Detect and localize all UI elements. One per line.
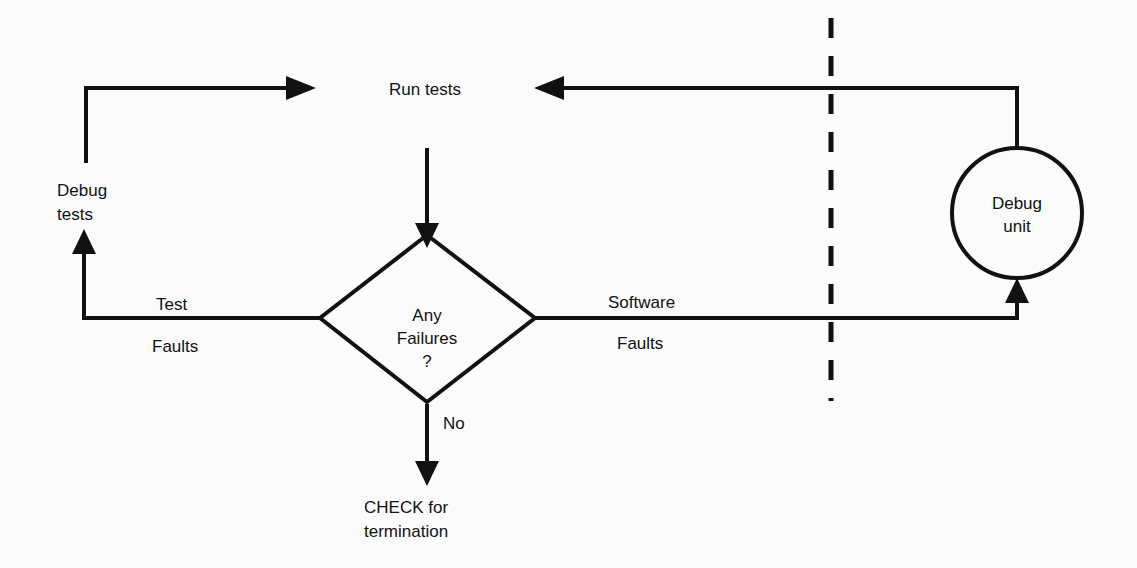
decision-node-label-line2: Failures — [397, 329, 457, 348]
edge-decision-no-to-termination — [415, 404, 439, 486]
decision-node-any-failures[interactable]: Any Failures ? — [320, 235, 535, 402]
debug-tests-label: Debug tests — [57, 181, 107, 224]
edge-label-no: No — [443, 414, 465, 433]
flowchart-svg: Any Failures ? Debug unit Debug tests CH… — [0, 0, 1137, 568]
edge-label-test: Test — [156, 295, 187, 314]
flowchart-canvas: Any Failures ? Debug unit Debug tests CH… — [0, 0, 1137, 568]
edge-label-software: Software — [608, 293, 675, 312]
edge-label-faults-left: Faults — [152, 337, 198, 356]
edge-label-faults-right: Faults — [617, 334, 663, 353]
edge-label-run-tests: Run tests — [389, 80, 461, 99]
edge-debug-tests-to-run-tests — [86, 76, 316, 163]
termination-node: CHECK for termination — [364, 498, 448, 541]
edge-debug-unit-to-run-tests — [534, 76, 1017, 148]
edge-decision-to-debug-tests — [72, 229, 320, 318]
decision-node-label-line3: ? — [422, 352, 431, 371]
debug-unit-label-line2: unit — [1003, 217, 1031, 236]
debug-unit-label-line1: Debug — [992, 194, 1042, 213]
decision-node-label-line1: Any — [412, 306, 442, 325]
debug-tests-label-line2: tests — [57, 205, 93, 224]
debug-tests-label-line1: Debug — [57, 181, 107, 200]
termination-label-line1: CHECK for — [364, 498, 448, 517]
debug-unit-node[interactable]: Debug unit — [952, 148, 1082, 278]
termination-label-line2: termination — [364, 522, 448, 541]
